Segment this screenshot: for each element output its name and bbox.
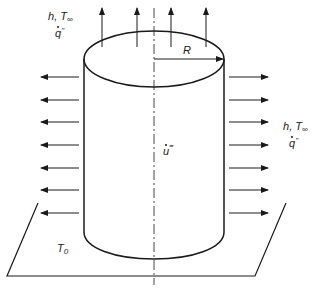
right-heat-flux-arrows (229, 77, 268, 213)
label-base-temperature: T0 (57, 242, 68, 258)
label-T: T (60, 10, 67, 22)
label-heat-generation: u‴ (163, 142, 172, 157)
label-top-left-convection: h, T∞ (48, 10, 73, 26)
label-T-sub: ∞ (302, 125, 308, 134)
label-q: q (289, 137, 295, 149)
label-T-sub: ∞ (67, 15, 73, 24)
label-radius: R (183, 44, 191, 56)
label-u-sup: ‴ (169, 143, 172, 153)
cylinder-diagram: h, T∞ q" h, T∞ q" R u‴ T0 (0, 0, 314, 291)
label-T: T (295, 120, 302, 132)
label-top-left-flux: q" (55, 25, 64, 39)
label-T0: T (57, 242, 64, 254)
diagram-canvas (0, 0, 314, 291)
label-q-sup: " (295, 136, 298, 145)
left-heat-flux-arrows (41, 77, 79, 213)
label-q: q (55, 27, 61, 39)
label-u: u (163, 145, 169, 157)
label-q-sup: " (61, 26, 64, 35)
label-right-convection: h, T∞ (283, 120, 308, 136)
label-T0-sub: 0 (64, 247, 68, 256)
base-plane (7, 203, 286, 276)
label-right-flux: q" (289, 135, 298, 149)
label-h: h (48, 10, 54, 22)
label-h: h (283, 120, 289, 132)
